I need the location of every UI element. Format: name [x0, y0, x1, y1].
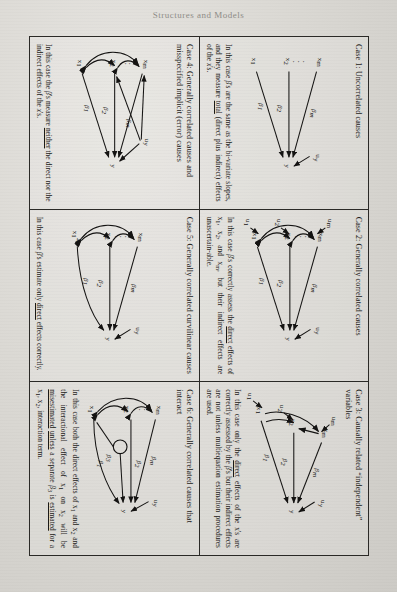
- case-panel-4: Case 4: Generally correlated causes and …: [30, 37, 199, 210]
- edge-label-b3: β3: [103, 454, 113, 463]
- node-uy: uy: [312, 327, 322, 335]
- node-xm: xm: [153, 406, 163, 416]
- node-uy: uy: [311, 154, 321, 162]
- case-note-6: In this case both the direct effects of …: [34, 389, 80, 548]
- edge-label-b1: β1: [81, 104, 91, 112]
- case-panel-3: Case 3: Causally related “independent” v…: [199, 382, 368, 555]
- edge-label-b2: β2: [100, 106, 110, 115]
- edge-label-b2: β2: [133, 460, 143, 469]
- node-x1: x1: [253, 407, 263, 415]
- node-u2: u2: [276, 405, 286, 413]
- case-note-4: In this case the β's measure neither the…: [34, 44, 53, 202]
- node-u1: u1: [244, 393, 254, 401]
- case-diagram-1: x1 x2 xm . . . y uy β1 β2 βm: [233, 44, 342, 202]
- vertical-dots: .: [290, 61, 299, 64]
- node-xm: xm: [140, 60, 150, 70]
- edge-label-bm: βm: [308, 283, 318, 293]
- node-uy: uy: [316, 500, 326, 508]
- case-panel-2: Case 2: Generally correlated causes x1 x…: [199, 210, 368, 383]
- edge-label-b1: β1: [261, 454, 271, 462]
- edge-label-b1: β1: [256, 277, 266, 285]
- case-diagram-2: x1 x2 xm . . . y uy u1 u2 um: [235, 217, 342, 375]
- edge-label-b1: β1: [255, 102, 265, 110]
- node-x1: x1: [248, 58, 258, 66]
- case-note-2: In this case β's correctly assess the di…: [204, 217, 235, 375]
- node-uy: uy: [150, 500, 160, 508]
- edge-label-bm: βm: [128, 283, 138, 293]
- case-diagram-5: x12 x2 xm . . . y uy: [44, 217, 173, 375]
- node-y: y: [108, 164, 116, 168]
- edge-label-b2: β2: [275, 279, 285, 288]
- node-x1: x1: [74, 60, 84, 68]
- case-note-5: In this case β's estimate only direct ef…: [34, 217, 44, 375]
- edge-label-bm: βm: [147, 456, 157, 466]
- case-title-3: Case 3: Causally related “independent” v…: [343, 389, 362, 548]
- interaction-node: [113, 440, 127, 454]
- scanned-page: Structures and Models Case 1: Uncorrelat…: [0, 0, 397, 592]
- edge-label-bm: βm: [310, 468, 320, 478]
- node-y: y: [120, 510, 128, 514]
- node-xm: xm: [135, 232, 145, 242]
- case-diagram-6: x1 x2 xm . . . y uy: [80, 389, 173, 548]
- case-diagram-4: x1 x2 xm . . . y uy: [54, 44, 174, 202]
- node-um: um: [328, 417, 338, 427]
- edge-label-bm: βm: [308, 108, 318, 118]
- node-x1: x1: [249, 232, 259, 240]
- node-x2: x2: [282, 58, 292, 66]
- case-title-5: Case 5: Generally correlated curvilinear…: [175, 217, 194, 375]
- case-title-1: Case 1: Uncorrelated causes: [344, 44, 363, 202]
- edge-label-b2: β2: [95, 279, 105, 288]
- case-grid: Case 1: Uncorrelated causes x1 x2 xm . .: [29, 36, 369, 556]
- edge-label-bm: βm: [123, 118, 133, 128]
- case-title-6: Case 6: Generally correlated causes that…: [174, 389, 193, 548]
- case-panel-6: Case 6: Generally correlated causes that…: [30, 382, 199, 555]
- case-diagram-3: x1 x2 xm u1 u2 um y uy: [243, 389, 342, 548]
- node-y: y: [287, 510, 295, 514]
- node-uy: uy: [141, 139, 151, 147]
- node-uy: uy: [132, 327, 142, 335]
- node-x1: x1: [86, 406, 96, 414]
- node-xm: xm: [315, 232, 325, 242]
- node-u1: u1: [241, 219, 251, 227]
- rotated-page-body: Case 1: Uncorrelated causes x1 x2 xm . .: [29, 36, 369, 556]
- node-x1-squared: x12: [69, 230, 82, 241]
- edge-label-b2: β2: [274, 104, 284, 113]
- case-title-4: Case 4: Generally correlated causes and …: [174, 44, 193, 202]
- running-head: Structures and Models: [0, 0, 397, 30]
- case-note-1: In this case β's are the same as the bi-…: [204, 44, 233, 202]
- node-y: y: [283, 337, 291, 341]
- node-x2: x2: [287, 419, 297, 427]
- node-y: y: [282, 164, 290, 168]
- edge-label-b1: β1: [94, 460, 104, 468]
- case-title-2: Case 2: Generally correlated causes: [344, 217, 363, 375]
- node-y: y: [103, 337, 111, 341]
- case-panel-5: Case 5: Generally correlated curvilinear…: [30, 210, 199, 383]
- edge-label-b2: β2: [279, 458, 289, 467]
- node-xm: xm: [314, 58, 324, 68]
- case-note-3: In this case only the direct effects of …: [204, 389, 243, 548]
- node-xm: xm: [319, 429, 329, 439]
- case-panel-1: Case 1: Uncorrelated causes x1 x2 xm . .: [199, 37, 368, 210]
- node-um: um: [324, 219, 334, 229]
